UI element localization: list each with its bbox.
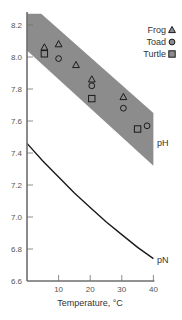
y-tick-label: 7.6: [11, 117, 23, 126]
y-tick-label: 8.2: [11, 21, 23, 30]
legend-item-turtle: Turtle: [143, 49, 175, 59]
legend-label: Toad: [146, 37, 166, 47]
triangle-icon: [169, 26, 176, 32]
legend-label: Turtle: [143, 49, 166, 59]
legend-label: Frog: [147, 25, 166, 35]
square-icon: [169, 51, 175, 57]
x-tick-label: 10: [54, 285, 63, 294]
y-tick-label: 7.2: [11, 181, 23, 190]
circle-icon: [169, 39, 175, 45]
x-tick-label: 40: [149, 285, 158, 294]
x-tick-label: 20: [86, 285, 95, 294]
y-tick-label: 7.8: [11, 85, 23, 94]
y-tick-label: 7.0: [11, 213, 23, 222]
ph-band: [27, 14, 153, 166]
chart-canvas: 6.66.87.07.27.47.67.88.08.210203040 Frog…: [0, 0, 182, 320]
x-axis-title: Temperature, °C: [57, 298, 123, 308]
legend-item-frog: Frog: [147, 25, 175, 35]
x-tick-label: 30: [117, 285, 126, 294]
pn-curve-path: [27, 143, 153, 258]
pn-curve: [27, 143, 153, 258]
y-tick-label: 6.8: [11, 245, 23, 254]
y-tick-label: 7.4: [11, 149, 23, 158]
ph-band-area: [27, 14, 153, 166]
pn-label: pN: [157, 255, 169, 265]
y-tick-label: 8.0: [11, 53, 23, 62]
legend-item-toad: Toad: [146, 37, 174, 47]
legend: FrogToadTurtle: [143, 25, 175, 59]
y-tick-label: 6.6: [11, 277, 23, 286]
ph-label: pH: [157, 138, 169, 148]
